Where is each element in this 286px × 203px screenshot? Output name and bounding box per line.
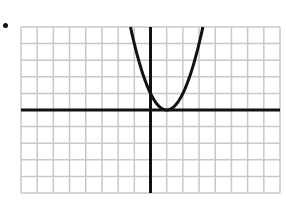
axes (21, 27, 280, 193)
parabola-graph (0, 0, 286, 203)
